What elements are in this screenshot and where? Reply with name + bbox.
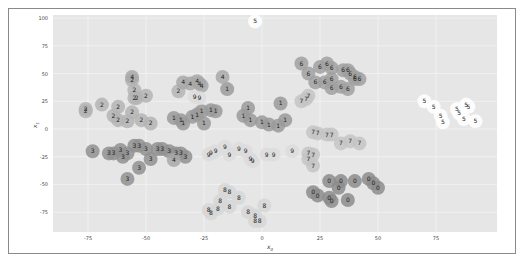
x-tick-label: -50	[142, 235, 150, 241]
data-point-label: 1	[279, 99, 283, 106]
data-point-label: 1	[172, 114, 176, 121]
data-point-label: 3	[149, 155, 153, 162]
data-point-label: 2	[149, 119, 153, 126]
data-point-label: 0	[376, 184, 380, 191]
data-point-label: 9	[265, 151, 269, 158]
data-point-label: 9	[214, 147, 218, 154]
data-point-label: 0	[346, 196, 350, 203]
data-point-label: 6	[313, 78, 317, 85]
axis-ticks: -75-50-250255075-75-50-250255075100	[38, 15, 439, 241]
y-tick-label: 75	[42, 43, 48, 49]
data-point-label: 1	[209, 106, 213, 113]
data-point-label: 5	[253, 17, 257, 24]
data-point-label: 7	[325, 131, 329, 138]
data-point-label: 6	[318, 63, 322, 70]
data-point-label: 3	[184, 153, 188, 160]
data-point-label: 3	[137, 142, 141, 149]
data-point-label: 7	[300, 97, 304, 104]
data-point-label: 7	[311, 162, 315, 169]
data-point-label: 2	[177, 87, 181, 94]
data-point-label: 0	[337, 184, 341, 191]
x-tick-label: -75	[84, 235, 92, 241]
data-point-label: 3	[156, 145, 160, 152]
y-tick-label: -25	[40, 154, 48, 160]
data-point-label: 2	[135, 94, 139, 101]
data-point-label: 2	[130, 108, 134, 115]
data-point-label: 4	[130, 73, 134, 80]
data-point-label: 5	[432, 103, 436, 110]
data-point-label: 5	[441, 118, 445, 125]
data-point-label: 6	[339, 83, 343, 90]
data-point-label: 0	[371, 179, 375, 186]
data-point-label: 6	[306, 70, 310, 77]
y-tick-label: 25	[42, 98, 48, 104]
data-point-label: 6	[330, 64, 334, 71]
data-point-label: 5	[467, 103, 471, 110]
x-tick-label: 0	[260, 235, 263, 241]
data-point-label: 1	[246, 104, 250, 111]
data-point-label: 3	[132, 142, 136, 149]
data-point-label: 8	[218, 197, 222, 204]
data-point-label: 3	[112, 149, 116, 156]
data-point-label: 2	[144, 92, 148, 99]
data-point-label: 9	[228, 151, 232, 158]
data-point-label: 1	[200, 107, 204, 114]
data-point-label: 6	[346, 85, 350, 92]
x-axis-label: x0	[266, 243, 274, 252]
y-tick-label: 100	[38, 15, 48, 21]
data-point-label: 7	[316, 129, 320, 136]
data-point-label: 9	[244, 147, 248, 154]
data-point-label: 6	[348, 70, 352, 77]
scatter-chart: 0000000000001111111111111111112222222222…	[0, 0, 526, 262]
data-point-label: 9	[207, 151, 211, 158]
y-tick-label: -75	[40, 209, 48, 215]
data-point-label: 2	[116, 103, 120, 110]
data-point-label: 0	[353, 177, 357, 184]
data-point-label: 6	[341, 66, 345, 73]
data-point-label: 9	[223, 143, 227, 150]
data-point-label: 3	[126, 175, 130, 182]
data-point-label: 9	[237, 145, 241, 152]
data-point-label: 3	[121, 153, 125, 160]
data-point-label: 9	[272, 151, 276, 158]
data-point-label: 8	[228, 203, 232, 210]
data-point-label: 2	[84, 107, 88, 114]
data-point-label: 3	[144, 145, 148, 152]
data-point-label: 9	[251, 157, 255, 164]
data-point-label: 9	[193, 93, 197, 100]
data-point-label: 8	[216, 205, 220, 212]
data-point-label: 6	[330, 84, 334, 91]
data-point-label: 7	[358, 139, 362, 146]
data-point-label: 3	[126, 149, 130, 156]
data-point-label: 3	[167, 147, 171, 154]
data-point-label: 1	[190, 113, 194, 120]
data-point-label: 2	[112, 112, 116, 119]
data-point-label: 2	[132, 86, 136, 93]
data-point-label: 8	[258, 217, 262, 224]
data-point-label: 1	[181, 119, 185, 126]
data-point-label: 5	[462, 115, 466, 122]
data-point-label: 2	[139, 116, 143, 123]
data-point-label: 4	[200, 82, 204, 89]
data-point-label: 3	[160, 145, 164, 152]
data-point-label: 1	[248, 116, 252, 123]
data-point-label: 9	[290, 147, 294, 154]
x-tick-label: 50	[375, 235, 381, 241]
data-point-label: 3	[137, 164, 141, 171]
data-point-label: 1	[267, 121, 271, 128]
data-point-label: 1	[283, 116, 287, 123]
data-point-label: 3	[107, 149, 111, 156]
data-point-label: 6	[300, 60, 304, 67]
data-point-label: 2	[126, 117, 130, 124]
data-point-label: 1	[276, 122, 280, 129]
data-point-label: 5	[422, 97, 426, 104]
data-point-label: 1	[202, 119, 206, 126]
data-point-label: 6	[330, 75, 334, 82]
data-point-label: 8	[246, 208, 250, 215]
data-point-label: 6	[325, 60, 329, 67]
data-point-label: 8	[237, 194, 241, 201]
data-point-label: 1	[225, 85, 229, 92]
data-point-label: 5	[457, 109, 461, 116]
data-point-label: 8	[223, 186, 227, 193]
x-tick-label: 75	[433, 235, 439, 241]
